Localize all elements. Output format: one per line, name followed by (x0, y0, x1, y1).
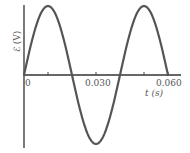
tick-label-0.030: 0.030 (85, 78, 111, 88)
x-axis-label: t (s) (145, 88, 164, 98)
y-axis-label: ℰ (V) (12, 31, 22, 52)
origin-label: 0 (25, 78, 31, 88)
emf-vs-time-chart: 0 0.030 0.060 t (s) ℰ (V) (0, 0, 190, 153)
tick-label-0.060: 0.060 (156, 78, 182, 88)
